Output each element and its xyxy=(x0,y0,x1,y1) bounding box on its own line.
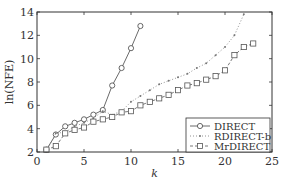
series-direct xyxy=(44,23,143,152)
x-axis-label: k xyxy=(151,167,158,180)
y-axis-label: ln(NFE) xyxy=(3,60,16,104)
legend-label: MrDIRECT xyxy=(214,141,270,152)
legend: DIRECT RDIRECT-b MrDIRECT xyxy=(186,118,271,152)
y-tick-label: 4 xyxy=(27,123,34,136)
dot-marker-icon xyxy=(199,135,201,137)
square-marker-icon xyxy=(197,143,202,148)
y-tick-label: 6 xyxy=(27,99,34,112)
y-tick-label: 2 xyxy=(27,146,34,159)
x-tick-label: 10 xyxy=(124,155,138,168)
y-tick-label: 10 xyxy=(20,53,34,66)
chart-canvas: 05101520252468101214 k ln(NFE) DIRECT RD… xyxy=(0,0,286,181)
y-tick-label: 8 xyxy=(27,76,34,89)
circle-marker-icon xyxy=(197,123,202,128)
x-tick-label: 15 xyxy=(171,155,185,168)
x-tick-label: 25 xyxy=(265,155,279,168)
x-tick-label: 20 xyxy=(218,155,232,168)
y-tick-label: 14 xyxy=(20,6,34,19)
x-tick-label: 0 xyxy=(34,155,41,168)
x-tick-label: 5 xyxy=(81,155,88,168)
y-tick-label: 12 xyxy=(20,29,34,42)
